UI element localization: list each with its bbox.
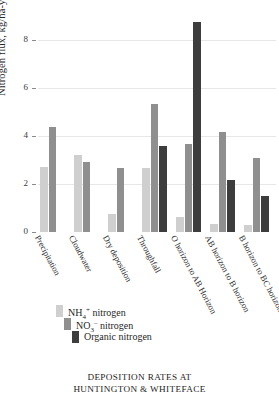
- bar-5-2: [227, 180, 235, 232]
- legend-item-2: Organic nitrogen: [56, 330, 226, 343]
- x-label-3: Throughfall: [135, 234, 162, 274]
- bar-0-1: [49, 127, 57, 232]
- y-tick-label-6: 6: [0, 83, 28, 92]
- y-tick-label-8: 8: [0, 35, 28, 44]
- y-tick-label-4: 4: [0, 131, 28, 140]
- figure-nitrogen-deposition: Nitrogen flux, kg/ha-yr 86420 Precipitat…: [0, 0, 279, 402]
- figure-caption: DEPOSITION RATES AT HUNTINGTON & WHITEFA…: [0, 372, 279, 395]
- y-axis-label: Nitrogen flux, kg/ha-yr: [0, 0, 7, 96]
- caption-line-2: HUNTINGTON & WHITEFACE: [0, 384, 279, 396]
- bar-6-1: [253, 158, 261, 232]
- y-tick-mark-6: [32, 88, 36, 89]
- legend-swatch-0: [56, 305, 63, 317]
- bar-6-2: [261, 196, 269, 232]
- bar-3-2: [159, 146, 167, 232]
- bar-2-1: [117, 168, 125, 232]
- bar-5-0: [210, 224, 218, 232]
- bar-3-0: [142, 168, 150, 232]
- bar-4-2: [193, 22, 201, 232]
- y-tick-mark-8: [32, 40, 36, 41]
- chart-legend: NH4+ nitrogenNO3– nitrogenOrganic nitrog…: [56, 304, 226, 343]
- legend-swatch-1: [64, 318, 71, 330]
- x-label-2: Dry deposition: [101, 234, 133, 284]
- y-tick-mark-2: [32, 184, 36, 185]
- y-tick-mark-0: [32, 232, 36, 233]
- legend-item-1: NO3– nitrogen: [56, 317, 226, 330]
- bar-2-0: [108, 214, 116, 232]
- y-tick-mark-4: [32, 136, 36, 137]
- x-label-0: Precipitation: [33, 234, 62, 277]
- plot-area: [38, 18, 276, 232]
- bar-0-0: [40, 167, 48, 232]
- caption-line-1: DEPOSITION RATES AT: [0, 372, 279, 384]
- bar-4-0: [176, 217, 184, 232]
- bar-4-1: [185, 144, 193, 232]
- bar-5-1: [219, 132, 227, 232]
- legend-swatch-2: [72, 331, 79, 343]
- bar-1-1: [83, 162, 91, 232]
- bar-3-1: [151, 104, 159, 232]
- y-tick-label-2: 2: [0, 179, 28, 188]
- legend-label-2: Organic nitrogen: [84, 330, 152, 343]
- bar-6-0: [244, 225, 252, 232]
- x-label-1: Cloudwater: [67, 234, 94, 274]
- bar-1-0: [74, 155, 82, 232]
- legend-item-0: NH4+ nitrogen: [56, 304, 226, 317]
